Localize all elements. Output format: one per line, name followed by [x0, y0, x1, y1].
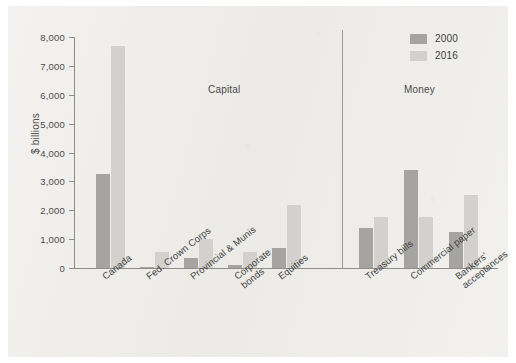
bar-2000 — [96, 174, 110, 268]
section-label-capital: Capital — [208, 84, 241, 95]
chart-figure: 2000 2016 $ billions 01,0002,0003,0004,0… — [0, 0, 516, 363]
bar-2000 — [404, 170, 418, 268]
y-axis-tick — [69, 268, 75, 269]
y-axis-tick-label: 2,000 — [40, 205, 65, 216]
y-axis-tick-label: 1,000 — [40, 234, 65, 245]
y-axis-tick — [69, 124, 75, 125]
section-divider — [342, 30, 343, 268]
y-axis-tick — [69, 181, 75, 182]
plot-area: 01,0002,0003,0004,0005,0006,0007,0008,00… — [74, 37, 498, 268]
y-axis-tick-label: 5,000 — [40, 118, 65, 129]
y-axis-tick — [69, 153, 75, 154]
y-axis-tick — [69, 37, 75, 38]
section-label-money: Money — [404, 84, 435, 95]
chart-panel: 2000 2016 $ billions 01,0002,0003,0004,0… — [8, 6, 508, 357]
bar-2016 — [111, 46, 125, 268]
y-axis-tick-label: 4,000 — [40, 147, 65, 158]
y-axis-tick-label: 8,000 — [40, 32, 65, 43]
bar-2000 — [359, 228, 373, 268]
y-axis-tick-label: 0 — [60, 263, 65, 274]
y-axis-tick-label: 3,000 — [40, 176, 65, 187]
y-axis-tick — [69, 95, 75, 96]
y-axis-tick — [69, 239, 75, 240]
y-axis-tick-label: 6,000 — [40, 89, 65, 100]
y-axis-tick-label: 7,000 — [40, 60, 65, 71]
y-axis-tick — [69, 210, 75, 211]
y-axis-tick — [69, 66, 75, 67]
